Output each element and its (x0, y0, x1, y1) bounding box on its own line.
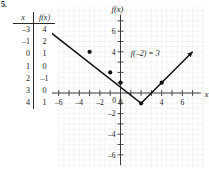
x-axis-label: x (204, 89, 209, 99)
y-tick-label: 0 (112, 96, 116, 105)
cell-x: 4 (13, 97, 34, 109)
x-tick-label: 6 (180, 98, 184, 107)
data-point-marker (108, 70, 112, 74)
data-point-marker (88, 50, 92, 54)
data-point-marker (160, 81, 164, 85)
table-row: –3 4 (13, 24, 55, 37)
table-header: x f(x) (13, 12, 55, 24)
cell-x: –1 (13, 36, 34, 48)
figure-container: 5. x f(x) –3 4 –1 2 0 1 1 0 (0, 0, 209, 171)
y-tick-label: 6 (112, 27, 116, 36)
cell-x: –3 (13, 24, 34, 37)
function-curve (52, 29, 193, 103)
table-row: 3 0 (13, 85, 55, 97)
table-header-x: x (13, 12, 34, 24)
cell-x: 3 (13, 85, 34, 97)
x-tick-label: –6 (54, 98, 63, 107)
x-tick-label: 4 (160, 98, 164, 107)
grid-lines (58, 6, 204, 168)
table-body: –3 4 –1 2 0 1 1 0 2 –1 3 0 (13, 24, 55, 110)
table-row: 1 0 (13, 61, 55, 73)
y-tick-label: –4 (107, 130, 116, 139)
table-row: 4 1 (13, 97, 55, 109)
cell-x: 2 (13, 73, 34, 85)
table-row: 0 1 (13, 48, 55, 60)
problem-number: 5. (1, 0, 7, 10)
cell-x: 0 (13, 48, 34, 60)
table-row: –1 2 (13, 36, 55, 48)
x-tick-label: –2 (95, 98, 104, 107)
x-tick-label: 0 (119, 98, 123, 107)
graph-panel: –6–4–2046 640–2–4–6 f(x) x f(–2) = 3 (52, 0, 209, 171)
cell-x: 1 (13, 61, 34, 73)
y-tick-label: 4 (112, 48, 116, 57)
table-of-values: x f(x) –3 4 –1 2 0 1 1 0 2 –1 (13, 12, 55, 109)
table-row: 2 –1 (13, 73, 55, 85)
data-point-marker (139, 101, 143, 105)
data-point-marker (118, 81, 122, 85)
x-tick-labels: –6–4–2046 (54, 98, 184, 107)
coordinate-graph: –6–4–2046 640–2–4–6 f(x) x f(–2) = 3 (52, 0, 209, 171)
annotation-label: f(–2) = 3 (131, 49, 160, 58)
y-axis-label: f(x) (112, 4, 124, 14)
x-tick-label: –4 (75, 98, 84, 107)
y-tick-label: –6 (107, 151, 116, 160)
table-header-row: x f(x) (13, 12, 55, 24)
y-tick-label: –2 (107, 109, 116, 118)
